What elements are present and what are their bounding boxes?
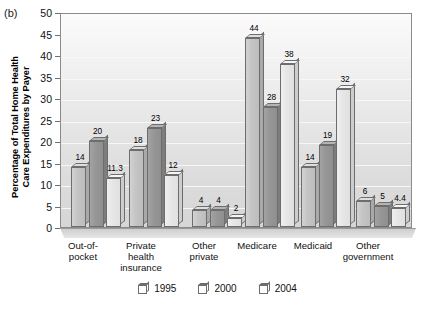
bar-front — [245, 38, 260, 227]
y-axis-tick-label: 0 — [46, 222, 52, 234]
bar[interactable]: 12 — [164, 175, 179, 227]
bar-front — [301, 167, 316, 227]
y-axis-tick — [55, 228, 60, 229]
y-axis-tick-label: 35 — [40, 72, 52, 84]
plot-frame: 142011.3182312442442838141932654.4 — [60, 13, 412, 228]
y-axis-tick-label: 30 — [40, 93, 52, 105]
x-axis-category-label: Medicare — [226, 240, 288, 251]
bar[interactable]: 32 — [336, 89, 351, 227]
bar[interactable]: 6 — [356, 201, 371, 227]
y-axis-tick — [55, 164, 60, 165]
bar-front — [319, 145, 334, 227]
bar-front — [89, 141, 104, 227]
y-axis-tick-label: 40 — [40, 50, 52, 62]
y-axis-title: Percentage of Total Home Health Care Exp… — [8, 4, 34, 250]
bar-front — [192, 210, 207, 227]
y-axis-tick-label: 15 — [40, 158, 52, 170]
bar-front — [263, 107, 278, 227]
bar[interactable]: 4 — [192, 210, 207, 227]
y-axis-title-line1: Percentage of Total Home Health — [10, 56, 20, 198]
bar[interactable]: 28 — [263, 107, 278, 227]
bar[interactable]: 20 — [89, 141, 104, 227]
legend-item[interactable]: 1995 — [138, 283, 176, 294]
bar-side — [295, 57, 299, 224]
bar[interactable]: 38 — [280, 64, 295, 227]
bar[interactable]: 14 — [301, 167, 316, 227]
bar-front — [106, 178, 121, 227]
y-axis-title-line2: Care Expenditures by Payer — [21, 67, 31, 188]
y-axis-tick-label: 50 — [40, 7, 52, 19]
x-axis-category-label: Other government — [337, 240, 399, 262]
plot-area: 142011.3182312442442838141932654.4 05101… — [60, 13, 412, 228]
chart-legend: 199520002004 — [0, 283, 435, 294]
y-axis-tick-label: 10 — [40, 179, 52, 191]
bar-value-label: 38 — [277, 49, 301, 59]
legend-label: 2004 — [275, 283, 297, 294]
bar[interactable]: 23 — [147, 128, 162, 227]
bar[interactable]: 11.3 — [106, 178, 121, 227]
bar-value-label: 20 — [86, 126, 110, 136]
bar-front — [336, 89, 351, 227]
bar-value-label: 44 — [242, 23, 266, 33]
y-axis-tick-label: 20 — [40, 136, 52, 148]
bar[interactable]: 18 — [129, 150, 144, 227]
bar-front — [129, 150, 144, 227]
bar-front — [147, 128, 162, 227]
y-axis-tick — [55, 207, 60, 208]
y-axis-tick — [55, 56, 60, 57]
legend-swatch-top — [259, 283, 270, 285]
legend-swatch-front — [138, 285, 147, 294]
bar-side — [351, 83, 355, 224]
x-axis-category-label: Medicaid — [282, 240, 344, 251]
bar-value-label: 23 — [144, 113, 168, 123]
legend-label: 2000 — [214, 283, 236, 294]
bar[interactable]: 4 — [210, 210, 225, 227]
y-axis-tick — [55, 121, 60, 122]
y-axis-tick — [55, 13, 60, 14]
bar[interactable]: 4.4 — [391, 208, 406, 227]
y-axis-tick-label: 5 — [46, 201, 52, 213]
legend-item[interactable]: 2004 — [259, 283, 297, 294]
bar-front — [164, 175, 179, 227]
bar-front — [356, 201, 371, 227]
bar-front — [280, 64, 295, 227]
y-axis-tick — [55, 35, 60, 36]
bar-series-container: 142011.3182312442442838141932654.4 — [61, 14, 411, 227]
bar[interactable]: 5 — [374, 206, 389, 228]
x-axis-category-label: Private health insurance — [110, 240, 172, 273]
bar-front — [374, 206, 389, 228]
bar-value-label: 12 — [161, 160, 185, 170]
bar[interactable]: 44 — [245, 38, 260, 227]
bar-side — [179, 169, 183, 224]
bar-front — [227, 218, 242, 227]
chart-floor — [60, 228, 416, 238]
x-axis-category-label: Out-of- pocket — [52, 240, 114, 262]
bar-value-label: 11.3 — [103, 163, 127, 173]
legend-swatch — [259, 283, 270, 294]
bar[interactable]: 2 — [227, 218, 242, 227]
bar-front — [391, 208, 406, 227]
y-axis-tick-label: 25 — [40, 115, 52, 127]
y-axis-tick — [55, 142, 60, 143]
bar-front — [71, 167, 86, 227]
legend-swatch — [138, 283, 149, 294]
legend-swatch-front — [259, 285, 268, 294]
legend-item[interactable]: 2000 — [198, 283, 236, 294]
y-axis-tick — [55, 78, 60, 79]
y-axis-tick — [55, 99, 60, 100]
legend-label: 1995 — [154, 283, 176, 294]
bar-value-label: 32 — [333, 74, 357, 84]
y-axis-tick-label: 45 — [40, 29, 52, 41]
bar-front — [210, 210, 225, 227]
bar[interactable]: 14 — [71, 167, 86, 227]
y-axis-tick — [55, 185, 60, 186]
bar-side — [121, 172, 125, 224]
legend-swatch — [198, 283, 209, 294]
bar[interactable]: 19 — [319, 145, 334, 227]
bar-value-label: 4.4 — [388, 193, 412, 203]
